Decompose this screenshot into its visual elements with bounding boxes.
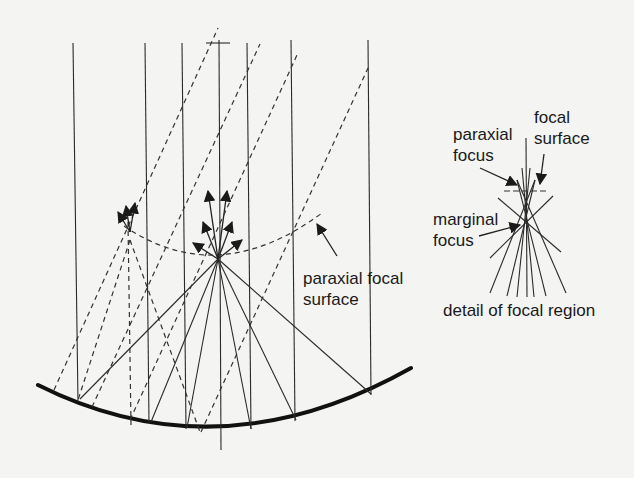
aberration-diagram: paraxial focal surface paraxial focus fo… (0, 0, 634, 478)
paraxial-focal-surface-label-1: paraxial focal (303, 269, 403, 288)
marginal-focus-label-2: focus (433, 231, 474, 250)
marginal-focus-label-1: marginal (433, 210, 498, 229)
paraxial-focus-label-1: paraxial (453, 125, 513, 144)
paraxial-focal-surface-pointer (317, 224, 337, 256)
focal-surface-pointer (540, 154, 544, 184)
focus-arrows (193, 191, 242, 259)
incident-rays (73, 40, 371, 429)
spherical-mirror (38, 368, 411, 427)
focal-surface-label-2: surface (534, 129, 590, 148)
focal-region-detail (490, 138, 566, 297)
paraxial-focal-surface-label-2: surface (303, 290, 359, 309)
focal-surface-label-1: focal (534, 108, 570, 127)
paraxial-focus-pointer (480, 168, 517, 185)
detail-caption: detail of focal region (443, 301, 595, 320)
paraxial-focus-label-2: focus (453, 146, 494, 165)
